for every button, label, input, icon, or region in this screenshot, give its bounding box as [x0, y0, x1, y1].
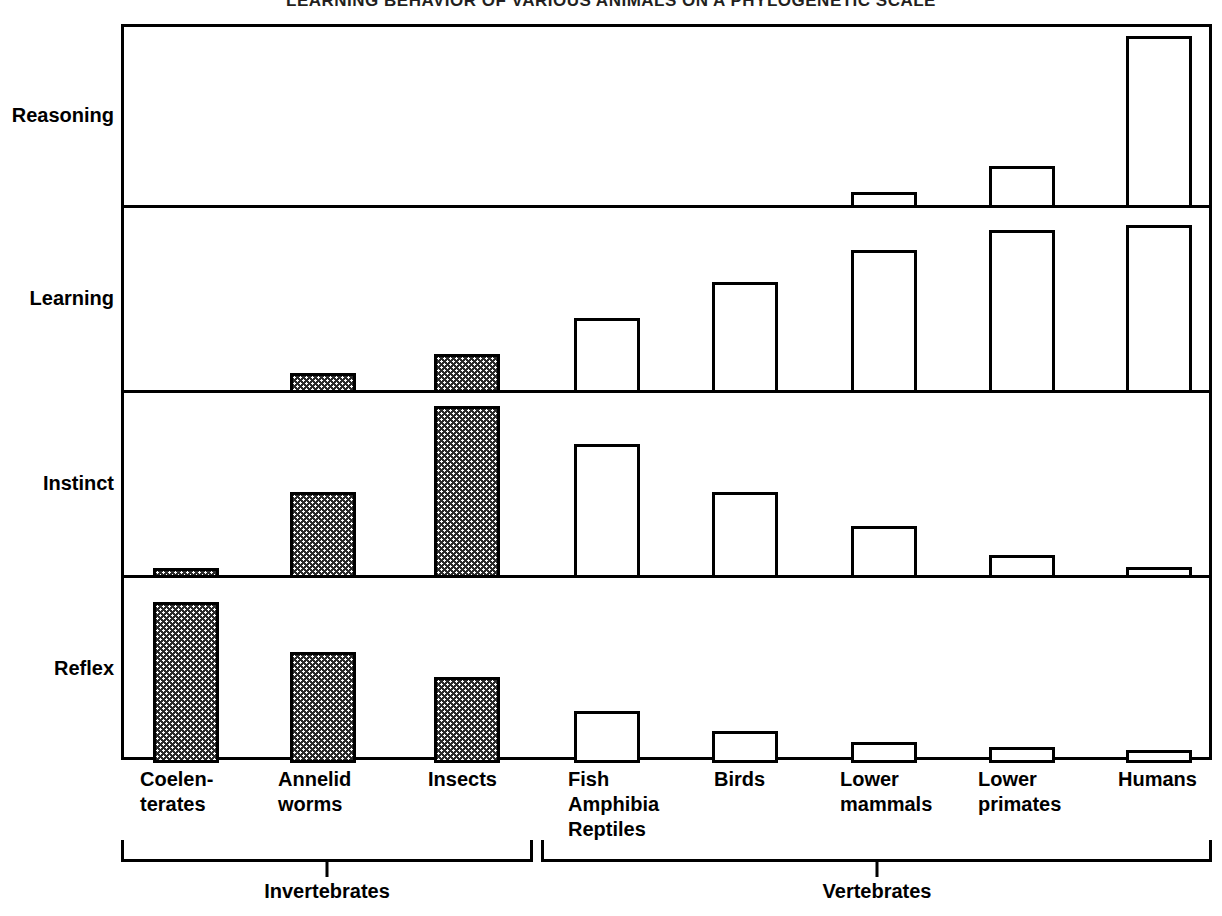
bar — [851, 526, 917, 578]
x-label-coelenterates: Coelen-terates — [140, 767, 213, 817]
bar — [434, 677, 500, 763]
group-bracket-invertebrates — [121, 840, 533, 862]
x-label-line: Amphibia — [568, 792, 659, 817]
x-label-line: terates — [140, 792, 213, 817]
x-label-annelid-worms: Annelidworms — [278, 767, 351, 817]
x-label-line: Lower — [840, 767, 932, 792]
bar — [712, 282, 778, 393]
x-label-lower-mammals: Lowermammals — [840, 767, 932, 817]
bar — [290, 373, 356, 393]
bar — [153, 602, 219, 763]
bar — [712, 731, 778, 763]
bar — [1126, 750, 1192, 763]
group-label-vertebrates: Vertebrates — [823, 880, 932, 903]
group-label-invertebrates: Invertebrates — [264, 880, 390, 903]
x-label-line: Annelid — [278, 767, 351, 792]
x-label-fish-amphibia-reptiles: FishAmphibiaReptiles — [568, 767, 659, 842]
chart-title: LEARNING BEHAVIOR OF VARIOUS ANIMALS ON … — [0, 0, 1222, 11]
x-label-line: Insects — [428, 767, 497, 792]
row-label-reflex: Reflex — [54, 657, 114, 680]
bar — [574, 711, 640, 763]
bar — [989, 747, 1055, 763]
x-label-line: Birds — [714, 767, 765, 792]
x-label-line: worms — [278, 792, 351, 817]
bar — [1126, 567, 1192, 578]
bar — [851, 250, 917, 393]
bar — [989, 555, 1055, 578]
bar — [1126, 36, 1192, 208]
x-label-insects: Insects — [428, 767, 497, 792]
bar — [434, 406, 500, 578]
plot-area — [121, 24, 1212, 760]
bar — [851, 742, 917, 763]
bar — [434, 354, 500, 393]
row-label-learning: Learning — [30, 287, 114, 310]
bar — [1126, 225, 1192, 393]
group-bracket-vertebrates — [541, 840, 1212, 862]
x-label-line: Lower — [978, 767, 1061, 792]
x-label-lower-primates: Lowerprimates — [978, 767, 1061, 817]
row-label-instinct: Instinct — [43, 472, 114, 495]
bar — [574, 444, 640, 578]
group-bracket-stem — [875, 859, 878, 877]
chart-figure: LEARNING BEHAVIOR OF VARIOUS ANIMALS ON … — [0, 0, 1222, 916]
x-label-birds: Birds — [714, 767, 765, 792]
bar — [290, 492, 356, 578]
bar — [290, 652, 356, 763]
bar — [989, 230, 1055, 393]
x-label-line: Fish — [568, 767, 659, 792]
bar — [989, 166, 1055, 208]
x-label-line: primates — [978, 792, 1061, 817]
x-label-line: Humans — [1118, 767, 1197, 792]
bar — [712, 492, 778, 578]
group-bracket-stem — [326, 859, 329, 877]
x-label-humans: Humans — [1118, 767, 1197, 792]
bar — [574, 318, 640, 393]
x-label-line: Reptiles — [568, 817, 659, 842]
row-label-reasoning: Reasoning — [12, 104, 114, 127]
x-label-line: Coelen- — [140, 767, 213, 792]
bar — [851, 192, 917, 208]
x-label-line: mammals — [840, 792, 932, 817]
bar — [153, 568, 219, 578]
